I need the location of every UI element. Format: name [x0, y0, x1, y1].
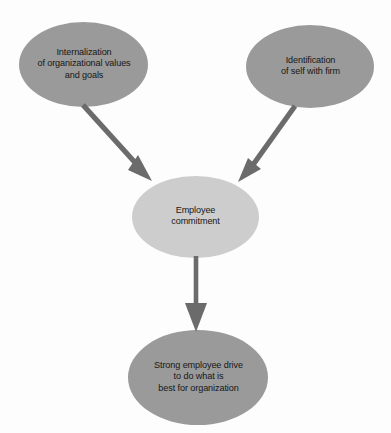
node-commitment-shape	[132, 176, 259, 258]
employee-commitment-diagram: Internalization of organizational values…	[0, 0, 391, 433]
edge-identification-to-commitment	[238, 106, 295, 182]
diagram-canvas	[0, 0, 391, 433]
node-internalization-shape	[19, 22, 148, 107]
edge-commitment-to-drive	[185, 256, 207, 332]
node-drive-shape	[128, 330, 268, 425]
edge-internalization-to-commitment	[83, 105, 152, 181]
node-identification-shape	[246, 25, 374, 108]
